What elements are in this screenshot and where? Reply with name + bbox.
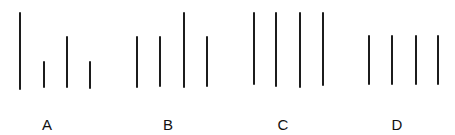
line-segment <box>43 61 45 88</box>
group-label: D <box>392 117 403 132</box>
line-segment <box>19 12 21 90</box>
line-segment <box>183 12 185 88</box>
line-segment <box>391 35 393 85</box>
line-segment <box>136 36 138 88</box>
line-groups-figure: A B C D <box>0 0 455 135</box>
line-segment <box>322 12 324 86</box>
line-segment <box>89 61 91 89</box>
line-segment <box>368 35 370 85</box>
line-segment <box>253 12 255 85</box>
group-label: B <box>163 117 173 132</box>
line-segment <box>437 35 439 85</box>
line-segment <box>206 36 208 87</box>
line-segment <box>415 35 417 85</box>
group-label: A <box>42 117 52 132</box>
line-segment <box>159 36 161 87</box>
line-segment <box>299 12 301 88</box>
line-segment <box>275 12 277 87</box>
line-segment <box>66 36 68 88</box>
group-label: C <box>278 117 289 132</box>
